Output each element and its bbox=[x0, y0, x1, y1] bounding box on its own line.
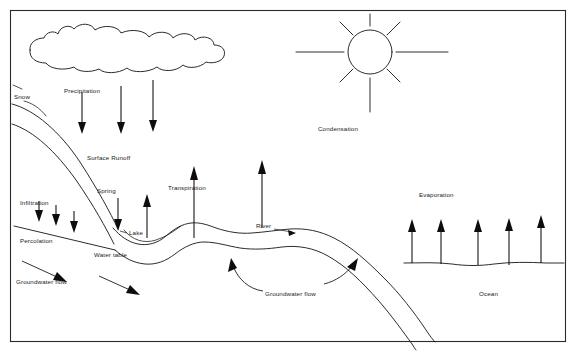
transpiration-arrows-group bbox=[143, 160, 266, 238]
sun-ray-ne bbox=[387, 22, 400, 35]
groundwater-right-arrow-head-2 bbox=[347, 258, 358, 271]
infiltration-arrow-head-1 bbox=[35, 210, 43, 222]
sun-ray-sw bbox=[340, 69, 353, 82]
label-evaporation: Evaporation bbox=[419, 191, 454, 198]
ocean-surface-line bbox=[404, 262, 564, 265]
label-condensation: Condensation bbox=[318, 125, 358, 132]
label-ocean: Ocean bbox=[479, 290, 498, 297]
label-groundwater-flow-left: Groundwater flow bbox=[16, 278, 67, 285]
evaporation-arrow-head-1 bbox=[408, 219, 416, 232]
cloud-shape bbox=[30, 24, 225, 72]
mountain-ridge-upper bbox=[12, 104, 118, 229]
label-percolation: Percolation bbox=[20, 237, 53, 244]
label-water-table: Water table bbox=[94, 251, 127, 258]
spring-arrow-head bbox=[114, 219, 122, 231]
groundwater-left-arrow-shaft-1 bbox=[22, 261, 57, 277]
water-cycle-diagram: Precipitation Snow Surface Runoff Infilt… bbox=[0, 0, 576, 352]
groundwater-left-arrow-shaft-2 bbox=[99, 276, 130, 290]
precipitation-arrow-head-1 bbox=[78, 122, 86, 134]
evaporation-arrow-head-2 bbox=[437, 219, 445, 232]
evaporation-arrow-head-5 bbox=[537, 215, 545, 228]
river-leader-head bbox=[288, 230, 296, 236]
groundwater-right-arrow-curve-2 bbox=[324, 266, 352, 284]
diagram-canvas: Precipitation Snow Surface Runoff Infilt… bbox=[0, 0, 576, 352]
snow-pointer-curve bbox=[24, 101, 46, 116]
label-infiltration: Infiltration bbox=[20, 199, 49, 206]
label-spring: Spring bbox=[97, 187, 116, 194]
groundwater-right-arrow-head-1 bbox=[228, 258, 237, 272]
infiltration-arrow-head-2 bbox=[52, 214, 60, 226]
label-groundwater-flow-right: Groundwater flow bbox=[265, 290, 316, 297]
evapotranspiration-arrow-head-3 bbox=[258, 160, 266, 174]
ground-surface-contour bbox=[113, 223, 435, 342]
label-snow: Snow bbox=[14, 93, 30, 100]
transpiration-arrow-head-2 bbox=[190, 166, 198, 180]
label-surface-runoff: Surface Runoff bbox=[87, 154, 130, 161]
label-river: River bbox=[256, 222, 271, 229]
precipitation-arrow-head-3 bbox=[149, 120, 157, 132]
spring-arrow-group bbox=[114, 198, 122, 231]
label-transpiration: Transpiration bbox=[168, 184, 206, 191]
evaporation-arrow-head-4 bbox=[505, 218, 513, 231]
sun-ray-se bbox=[387, 69, 400, 82]
mountain-slope-group bbox=[12, 85, 118, 244]
snow-tick-mark bbox=[13, 85, 22, 89]
sun-ray-nw bbox=[340, 22, 353, 35]
precipitation-arrow-head-2 bbox=[117, 122, 125, 134]
label-lake: Lake bbox=[129, 229, 143, 236]
groundwater-left-arrow-head-2 bbox=[126, 285, 140, 295]
groundwater-right-arrow-curve-1 bbox=[234, 268, 263, 291]
infiltration-arrow-head-3 bbox=[70, 221, 78, 233]
label-precipitation: Precipitation bbox=[64, 87, 100, 94]
sun-shape bbox=[348, 30, 392, 74]
mountain-ridge-lower bbox=[12, 124, 114, 244]
evaporation-arrows-group bbox=[408, 215, 545, 265]
evaporation-arrow-head-3 bbox=[474, 219, 482, 232]
sun-rays-group bbox=[296, 14, 448, 112]
transpiration-arrow-head-1 bbox=[143, 194, 151, 207]
